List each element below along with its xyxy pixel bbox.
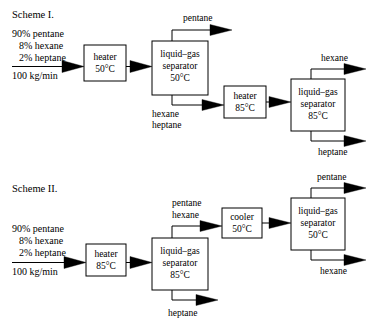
scheme-1-heptane-arrowhead: [344, 136, 366, 147]
scheme-1-separator-2-temp: 85°C: [308, 111, 328, 121]
scheme-2-pentane-arrowhead: [344, 183, 366, 194]
scheme-2-cooler-temp: 50°C: [232, 224, 252, 234]
scheme-1-heater2-to-sep2-arrowhead: [269, 97, 291, 108]
scheme-1-heptane-line: [311, 131, 348, 141]
scheme-1-heater-to-sep1-arrowhead: [130, 61, 152, 73]
scheme-1-feed-arrowhead: [62, 61, 84, 73]
scheme-2-heater-to-sep1-arrowhead: [130, 257, 152, 269]
scheme-1-pentane-label: pentane: [183, 13, 213, 23]
process-flow-diagram: Scheme I. 90% pentane 8% hexane 2% hepta…: [0, 0, 378, 322]
scheme-1-separator-2-title1: liquid–gas: [298, 87, 338, 97]
scheme-2-heater-temp: 85°C: [96, 261, 116, 271]
scheme-1-label: Scheme I.: [12, 9, 54, 20]
scheme-1-heater-title: heater: [93, 52, 117, 62]
scheme-1-heater-2-title: heater: [233, 91, 257, 101]
scheme-2-separator-2-title1: liquid–gas: [298, 206, 338, 216]
scheme-1-pentane-arrowhead: [210, 25, 232, 36]
scheme-2-heptane-label: heptane: [168, 308, 198, 318]
scheme-2-sep1-top-arrowhead: [200, 221, 222, 232]
scheme-1-feed-line1: 90% pentane: [12, 28, 64, 39]
scheme-1-hexane-label: hexane: [321, 53, 348, 63]
scheme-1-heater-box: [84, 45, 126, 81]
scheme-1-sep1-bottom-label2: heptane: [152, 120, 182, 130]
scheme-2-heater-title: heater: [94, 249, 118, 259]
scheme-1-feed-line3: 2% heptane: [19, 52, 66, 63]
scheme-1-heptane-label: heptane: [318, 147, 348, 157]
scheme-2-hexane-line: [311, 250, 348, 260]
scheme-2-label: Scheme II.: [12, 183, 57, 194]
scheme-2-separator-1-title2: separator: [163, 258, 199, 268]
scheme-2-pentane-line: [311, 188, 348, 198]
scheme-1-hexane-line: [311, 69, 348, 79]
scheme-1-heater-temp: 50°C: [95, 64, 115, 74]
scheme-2-sep1-top-label2: hexane: [172, 210, 199, 220]
scheme-2-feed-line2: 8% hexane: [19, 235, 64, 246]
scheme-2-separator-2-title2: separator: [301, 218, 337, 228]
scheme-1-feed-rate: 100 kg/min: [12, 70, 58, 81]
scheme-1-hexane-arrowhead: [344, 64, 366, 75]
scheme-2-heptane-arrowhead: [196, 295, 218, 306]
scheme-2-pentane-label: pentane: [317, 172, 347, 182]
scheme-1-sep1-bottom-label1: hexane: [152, 109, 179, 119]
scheme-2-hexane-label: hexane: [320, 266, 347, 276]
scheme-2-feed-line1: 90% pentane: [12, 223, 64, 234]
scheme-2-feed-rate: 100 kg/min: [12, 266, 58, 277]
flow-diagram-canvas: Scheme I. 90% pentane 8% hexane 2% hepta…: [0, 0, 378, 322]
scheme-1-separator-1-temp: 50°C: [170, 73, 190, 83]
scheme-1-heater-2-temp: 85°C: [235, 103, 255, 113]
scheme-1-sep1-bottom-arrowhead: [202, 100, 224, 111]
scheme-2-feed-line3: 2% heptane: [19, 247, 66, 258]
scheme-1-separator-1-title1: liquid–gas: [160, 49, 200, 59]
scheme-2-separator-1-temp: 85°C: [170, 270, 190, 280]
scheme-2-separator-2-temp: 50°C: [308, 230, 328, 240]
scheme-1-separator-1-title2: separator: [163, 61, 199, 71]
scheme-2-feed-arrowhead: [64, 257, 86, 269]
scheme-1-separator-2-title2: separator: [301, 99, 337, 109]
scheme-2-separator-1-title1: liquid–gas: [160, 246, 200, 256]
scheme-2-hexane-arrowhead: [344, 255, 366, 266]
scheme-2-cooler-title: cooler: [230, 212, 255, 222]
scheme-1-feed-line2: 8% hexane: [19, 40, 64, 51]
scheme-2-cooler-to-sep2-arrowhead: [269, 218, 291, 229]
scheme-2-sep1-top-label1: pentane: [172, 198, 202, 208]
